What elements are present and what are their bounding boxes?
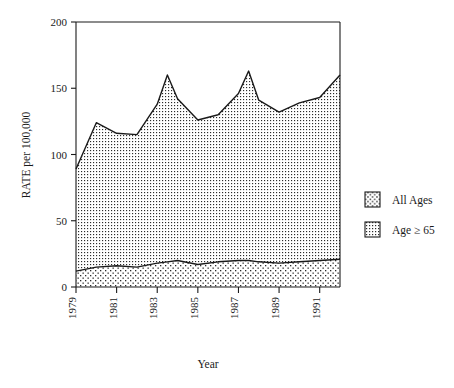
y-tick-label: 200 — [51, 16, 68, 28]
legend-swatch-all-ages — [365, 192, 380, 207]
chart-figure: 050100150200 197919811983198519871989199… — [0, 0, 454, 388]
x-tick-label: 1985 — [188, 297, 200, 320]
x-axis-ticks: 1979198119831985198719891991 — [66, 287, 322, 319]
x-tick-label: 1979 — [66, 297, 78, 320]
legend-label-all-ages: All Ages — [392, 194, 433, 207]
x-tick-label: 1991 — [310, 297, 322, 319]
y-tick-label: 100 — [51, 149, 68, 161]
x-tick-label: 1981 — [107, 297, 119, 319]
x-tick-label: 1987 — [228, 297, 240, 320]
x-tick-label: 1989 — [269, 297, 281, 320]
x-axis-title: Year — [197, 358, 218, 370]
legend-swatch-age-65-plus — [365, 222, 380, 237]
y-tick-label: 0 — [62, 281, 68, 293]
legend-label-age-65-plus: Age ≥ 65 — [392, 224, 435, 237]
y-tick-label: 50 — [56, 215, 68, 227]
y-axis-title: RATE per 100,000 — [20, 111, 33, 198]
y-axis-ticks: 050100150200 — [51, 16, 77, 293]
y-tick-label: 150 — [51, 82, 68, 94]
legend: All Ages Age ≥ 65 — [365, 192, 435, 237]
area-chart-svg: 050100150200 197919811983198519871989199… — [0, 0, 454, 388]
x-tick-label: 1983 — [147, 297, 159, 320]
